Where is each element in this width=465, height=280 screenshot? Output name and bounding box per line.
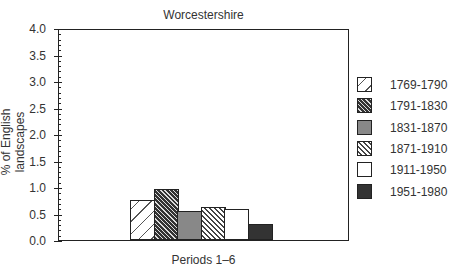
legend-swatch (357, 141, 372, 156)
legend-swatch (357, 77, 372, 92)
legend-label: 1951-1980 (390, 185, 447, 199)
y-tick-label: 0.5 (0, 208, 46, 222)
plot-area (58, 29, 349, 241)
y-tick-label: 1.5 (0, 155, 46, 169)
y-tick-label: 3.5 (0, 49, 46, 63)
y-major-tick (54, 241, 62, 242)
bar-1951-1980 (248, 224, 273, 240)
legend-label: 1911-1950 (390, 163, 447, 177)
legend-label: 1769-1790 (390, 78, 447, 92)
chart-title: Worcestershire (58, 8, 349, 22)
y-tick-label: 1.0 (0, 181, 46, 195)
legend-swatch (357, 184, 372, 199)
legend-label: 1871-1910 (390, 142, 447, 156)
legend-label: 1791-1830 (390, 99, 447, 113)
x-axis-label: Periods 1–6 (58, 253, 349, 267)
legend-swatch (357, 120, 372, 135)
bar-1831-1870 (177, 211, 202, 240)
legend-swatch (357, 162, 372, 177)
legend-swatch (357, 98, 372, 113)
y-tick-label: 4.0 (0, 22, 46, 36)
bar-1911-1950 (224, 209, 249, 240)
y-tick-label: 2.5 (0, 102, 46, 116)
y-tick-label: 0.0 (0, 234, 46, 248)
bar-1791-1830 (154, 189, 179, 240)
legend-label: 1831-1870 (390, 121, 447, 135)
y-tick-label: 3.0 (0, 75, 46, 89)
bar-1769-1790 (130, 200, 155, 240)
bar-1871-1910 (201, 207, 226, 240)
y-tick-label: 2.0 (0, 128, 46, 142)
